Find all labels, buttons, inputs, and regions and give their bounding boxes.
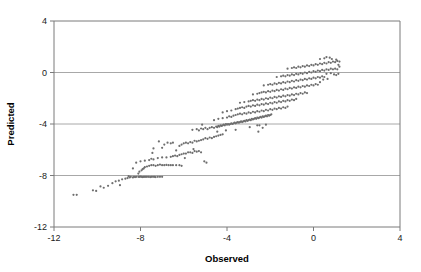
data-point (172, 142, 174, 144)
data-point (276, 89, 278, 91)
data-point (196, 151, 198, 153)
data-point (310, 78, 312, 80)
data-point (130, 176, 132, 178)
data-point (280, 107, 282, 109)
data-point (135, 176, 137, 178)
data-point (115, 180, 117, 182)
data-point (263, 104, 265, 106)
data-point (250, 106, 252, 108)
data-point (304, 91, 306, 93)
data-point (273, 107, 275, 109)
data-point (282, 106, 284, 108)
data-point (323, 62, 325, 64)
data-point (265, 102, 267, 104)
data-point (198, 150, 200, 152)
data-point (132, 167, 134, 169)
data-point (215, 135, 217, 137)
data-point (269, 108, 271, 110)
data-point (263, 98, 265, 100)
data-point (185, 142, 187, 144)
data-point (276, 76, 278, 78)
data-point (243, 112, 245, 114)
y-axis-tick-labels: -12-8-404 (34, 16, 47, 232)
data-point (222, 133, 224, 135)
data-point (334, 61, 336, 63)
data-point (256, 93, 258, 95)
data-point (336, 68, 338, 70)
data-point (321, 69, 323, 71)
data-point (248, 100, 250, 102)
data-point (328, 69, 330, 71)
data-point (202, 138, 204, 140)
data-point (159, 163, 161, 165)
data-point (175, 149, 177, 151)
data-point (271, 102, 273, 104)
data-point (321, 75, 323, 77)
data-point (276, 97, 278, 99)
data-point (187, 142, 189, 144)
data-point (310, 64, 312, 66)
data-point (291, 73, 293, 75)
data-point (299, 66, 301, 68)
data-point (228, 115, 230, 117)
data-point (92, 189, 94, 191)
data-point (225, 129, 227, 131)
data-point (258, 111, 260, 113)
data-point (163, 164, 165, 166)
data-point (170, 142, 172, 144)
data-point (137, 172, 139, 174)
y-tick-label: -4 (39, 119, 47, 129)
data-point (213, 136, 215, 138)
data-point (321, 63, 323, 65)
data-point (315, 77, 317, 79)
data-point (319, 62, 321, 64)
data-point (119, 184, 121, 186)
data-point (329, 57, 331, 59)
data-point (200, 127, 202, 129)
data-point (295, 93, 297, 95)
data-point (335, 74, 337, 76)
data-point (230, 116, 232, 118)
data-point (278, 82, 280, 84)
data-point (306, 72, 308, 74)
data-point (312, 77, 314, 79)
data-point (289, 100, 291, 102)
data-point (293, 66, 295, 68)
data-point (213, 119, 215, 121)
data-point (304, 78, 306, 80)
data-point (289, 75, 291, 77)
data-point (295, 67, 297, 69)
data-point (121, 178, 123, 180)
data-point (278, 100, 280, 102)
data-point (261, 109, 263, 111)
data-point (325, 73, 327, 75)
data-point (291, 87, 293, 89)
data-point (280, 88, 282, 90)
data-point (249, 126, 251, 128)
data-point (293, 74, 295, 76)
data-point (331, 58, 333, 60)
data-point (304, 86, 306, 88)
data-point (293, 99, 295, 101)
data-point (222, 117, 224, 119)
data-point (152, 164, 154, 166)
data-point (166, 142, 168, 144)
data-point (205, 162, 207, 164)
data-point (337, 73, 339, 75)
data-point (193, 150, 195, 152)
data-point (206, 128, 208, 130)
data-point (235, 129, 237, 131)
data-point (291, 93, 293, 95)
data-point (256, 110, 258, 112)
data-point (243, 107, 245, 109)
data-point (211, 126, 213, 128)
data-point (261, 91, 263, 93)
data-point (299, 72, 301, 74)
data-point (273, 101, 275, 103)
data-point (276, 83, 278, 85)
data-point (178, 145, 180, 147)
data-point (252, 111, 254, 113)
data-point (135, 162, 137, 164)
data-point (250, 100, 252, 102)
data-point (299, 78, 301, 80)
